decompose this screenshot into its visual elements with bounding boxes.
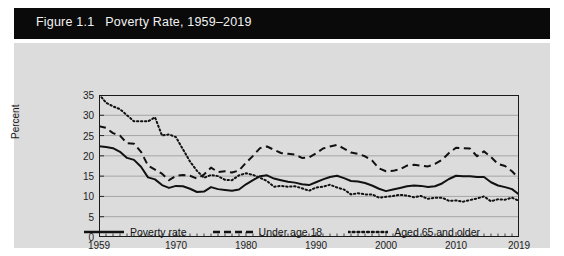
x-tick-label: 2019 (508, 240, 530, 251)
legend-swatch-dashed-icon (213, 227, 253, 237)
legend-label: Poverty rate (130, 226, 187, 238)
legend-label: Under age 18 (259, 226, 323, 238)
x-tick-label: 1959 (88, 240, 110, 251)
y-tick-label: 25 (70, 130, 94, 141)
legend-item-3[interactable]: Aged 65 and older (348, 226, 480, 238)
legend-item-1[interactable]: Poverty rate (84, 226, 187, 238)
x-tick-label: 1980 (235, 240, 257, 251)
y-tick-label: 30 (70, 110, 94, 121)
chart-legend: Poverty rateUnder age 18Aged 65 and olde… (14, 226, 550, 238)
figure-title: Figure 1.1 Poverty Rate, 1959–2019 (36, 15, 252, 29)
y-axis-ticks: 05101520253035 (70, 95, 94, 237)
y-tick-label: 5 (70, 211, 94, 222)
legend-item-2[interactable]: Under age 18 (213, 226, 323, 238)
y-tick-label: 15 (70, 171, 94, 182)
x-axis-ticks: 1959197019801990200020102019 (99, 240, 519, 254)
legend-label: Aged 65 and older (394, 226, 480, 238)
y-tick-label: 35 (70, 90, 94, 101)
figure-panel: Percent 05101520253035 19591970198019902… (14, 43, 550, 248)
x-tick-label: 1990 (305, 240, 327, 251)
y-axis-label: Percent (10, 105, 21, 139)
x-tick-label: 2010 (445, 240, 467, 251)
x-tick-label: 2000 (375, 240, 397, 251)
plot-frame (99, 95, 519, 237)
legend-swatch-solid-icon (84, 227, 124, 237)
y-tick-label: 10 (70, 191, 94, 202)
legend-swatch-dotted-icon (348, 227, 388, 237)
figure-page: Figure 1.1 Poverty Rate, 1959–2019 Perce… (0, 0, 564, 256)
y-tick-label: 20 (70, 150, 94, 161)
x-tick-label: 1970 (165, 240, 187, 251)
figure-title-band: Figure 1.1 Poverty Rate, 1959–2019 (14, 8, 550, 39)
